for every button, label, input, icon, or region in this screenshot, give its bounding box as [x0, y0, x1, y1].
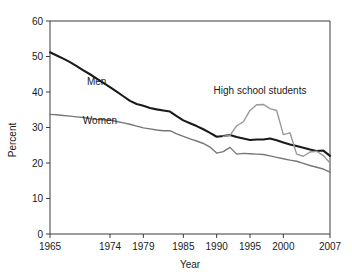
x-tick-label: 1985 [172, 241, 195, 252]
x-tick-marks [50, 234, 330, 238]
series-line-men [50, 52, 330, 156]
plot-axes [50, 21, 330, 234]
y-tick-label: 30 [32, 122, 44, 133]
y-tick-label: 50 [32, 51, 44, 62]
y-tick-label: 10 [32, 193, 44, 204]
series-label-men: Men [87, 76, 106, 87]
series-label-women: Women [83, 115, 117, 126]
x-tick-label: 1995 [239, 241, 262, 252]
y-tick-label: 60 [32, 16, 44, 27]
x-axis-title: Year [180, 259, 201, 270]
x-tick-label: 1965 [39, 241, 62, 252]
y-axis-title: Percent [7, 123, 18, 158]
y-tick-label: 0 [37, 229, 43, 240]
data-series [50, 52, 330, 172]
x-tick-label: 1974 [99, 241, 122, 252]
x-tick-label: 2007 [319, 241, 342, 252]
x-tick-label: 2000 [272, 241, 295, 252]
series-label-high-school-students: High school students [214, 85, 307, 96]
x-tick-labels: 19651974197919851990199520002007 [39, 241, 342, 252]
y-tick-label: 40 [32, 87, 44, 98]
x-tick-label: 1979 [132, 241, 155, 252]
y-tick-labels: 0102030405060 [32, 16, 44, 240]
y-tick-label: 20 [32, 158, 44, 169]
chart-container: 0102030405060 19651974197919851990199520… [0, 0, 352, 279]
line-chart: 0102030405060 19651974197919851990199520… [0, 0, 352, 279]
x-tick-label: 1990 [206, 241, 229, 252]
